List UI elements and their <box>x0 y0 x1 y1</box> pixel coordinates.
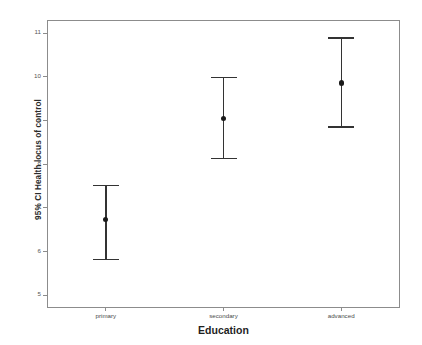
x-tick-mark <box>223 308 224 311</box>
error-bar-upper-cap <box>93 185 119 186</box>
y-tick-mark <box>43 33 47 34</box>
y-tick-label: 9 <box>38 116 41 123</box>
error-bar-lower-cap <box>211 158 237 159</box>
x-tick-mark <box>105 308 106 311</box>
y-tick-mark <box>43 295 47 296</box>
figure-canvas: 95% CI Health locus of control 111098765… <box>0 0 422 345</box>
y-tick-label: 10 <box>34 72 41 79</box>
y-tick-label: 8 <box>38 159 41 166</box>
plot-area <box>47 20 400 308</box>
mean-marker-advanced <box>339 80 344 85</box>
y-tick-label: 7 <box>38 203 41 210</box>
x-tick-label: secondary <box>184 312 264 319</box>
x-tick-label: primary <box>66 312 146 319</box>
y-tick-mark <box>43 207 47 208</box>
y-tick-mark <box>43 76 47 77</box>
error-bar-lower-cap <box>93 259 119 260</box>
x-axis-title: Education <box>47 324 400 336</box>
mean-marker-secondary <box>221 116 226 121</box>
y-tick-label: 5 <box>38 290 41 297</box>
x-tick-mark <box>341 308 342 311</box>
error-bar-upper-cap <box>211 77 237 78</box>
y-tick-label: 6 <box>38 247 41 254</box>
error-bar-upper-cap <box>328 37 354 38</box>
x-tick-label: advanced <box>301 312 381 319</box>
y-tick-mark <box>43 120 47 121</box>
y-tick-mark <box>43 164 47 165</box>
error-bar-lower-cap <box>328 126 354 127</box>
y-tick-label: 11 <box>35 28 41 35</box>
y-tick-mark <box>43 251 47 252</box>
